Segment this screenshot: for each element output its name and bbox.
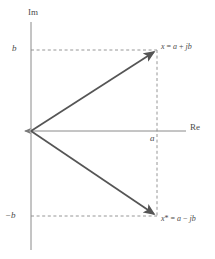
vector-x-conjugate: [31, 131, 154, 214]
point-label-xc-equals: =: [169, 214, 178, 223]
point-label-x-imag: b: [188, 42, 192, 51]
tick-label-a: a: [150, 134, 155, 143]
real-axis-label: Re: [190, 123, 200, 132]
point-label-x-operator: +: [177, 42, 186, 51]
point-label-x-conjugate: x* = a − jb: [161, 215, 196, 223]
tick-label-b: b: [12, 44, 17, 53]
complex-plane-figure: Im Re b −b a x = a + jb x* = a − jb: [0, 0, 215, 259]
point-label-xc-imag: b: [192, 214, 196, 223]
point-label-x-equals: =: [165, 42, 174, 51]
point-label-x: x = a + jb: [161, 43, 192, 51]
tick-label-negative-b: −b: [5, 211, 16, 220]
imaginary-axis-label: Im: [28, 8, 38, 17]
vector-x: [31, 52, 154, 131]
point-label-xc-operator: −: [181, 214, 190, 223]
